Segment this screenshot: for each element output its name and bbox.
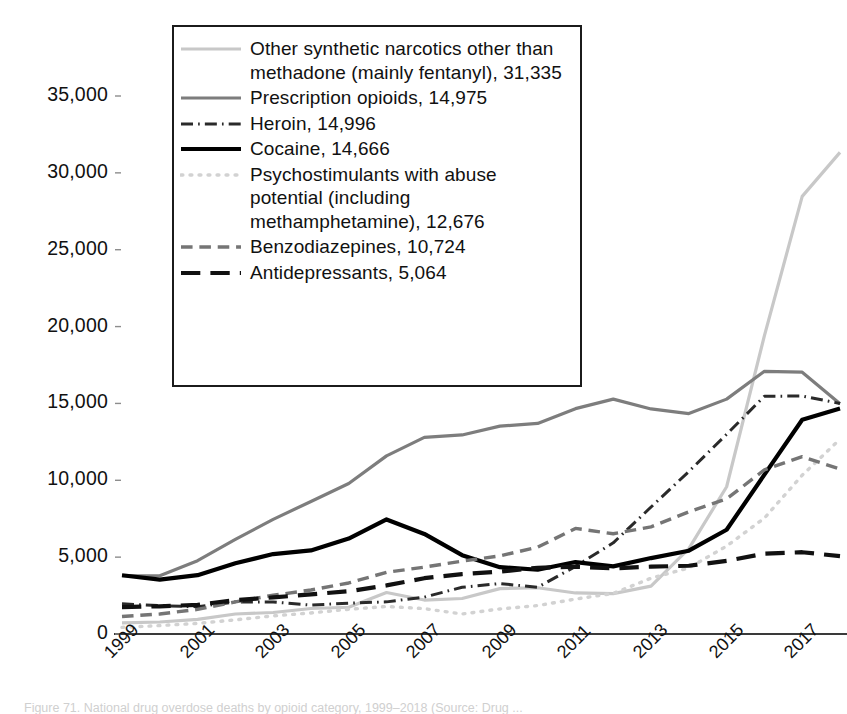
figure-caption: Figure 71. National drug overdose deaths… bbox=[24, 701, 824, 714]
line-swatch-dashdot-dark bbox=[180, 112, 242, 134]
y-tick-label-30000: 30,000 bbox=[8, 160, 108, 183]
figure-container: 05,00010,00015,00020,00025,00030,00035,0… bbox=[0, 0, 847, 714]
y-tick-label-15000: 15,000 bbox=[8, 390, 108, 413]
legend-item-label: Prescription opioids, 14,975 bbox=[250, 86, 487, 110]
line-swatch-solid-black bbox=[180, 137, 242, 159]
y-tick-label-25000: 25,000 bbox=[8, 237, 108, 260]
y-tick-label-5000: 5,000 bbox=[8, 544, 108, 567]
line-swatch-solid-gray bbox=[180, 86, 242, 108]
legend-item-label: Heroin, 14,996 bbox=[250, 112, 376, 136]
legend-item-label: Other synthetic narcotics other than met… bbox=[250, 37, 572, 84]
y-tick-label-0: 0 bbox=[8, 621, 108, 644]
legend-item-label: Antidepressants, 5,064 bbox=[250, 261, 447, 285]
line-swatch-dashed-black bbox=[180, 261, 242, 283]
legend-item-label: Benzodiazepines, 10,724 bbox=[250, 235, 466, 259]
series-line-1 bbox=[122, 371, 840, 575]
line-swatch-dotted-light bbox=[180, 163, 242, 185]
chart-legend: Other synthetic narcotics other than met… bbox=[172, 25, 582, 387]
legend-item: Cocaine, 14,666 bbox=[174, 137, 572, 161]
line-swatch-solid-light-gray bbox=[180, 37, 242, 59]
legend-item: Psychostimulants with abuse potential (i… bbox=[174, 163, 572, 234]
line-swatch-dashed-gray bbox=[180, 235, 242, 257]
y-tick-label-20000: 20,000 bbox=[8, 314, 108, 337]
legend-item-label: Psychostimulants with abuse potential (i… bbox=[250, 163, 572, 234]
legend-item: Antidepressants, 5,064 bbox=[174, 261, 572, 285]
series-line-2 bbox=[122, 396, 840, 607]
legend-item: Prescription opioids, 14,975 bbox=[174, 86, 572, 110]
legend-item: Benzodiazepines, 10,724 bbox=[174, 235, 572, 259]
y-tick-label-35000: 35,000 bbox=[8, 83, 108, 106]
legend-item: Heroin, 14,996 bbox=[174, 112, 572, 136]
legend-item-label: Cocaine, 14,666 bbox=[250, 137, 390, 161]
y-tick-label-10000: 10,000 bbox=[8, 467, 108, 490]
legend-item: Other synthetic narcotics other than met… bbox=[174, 37, 572, 84]
